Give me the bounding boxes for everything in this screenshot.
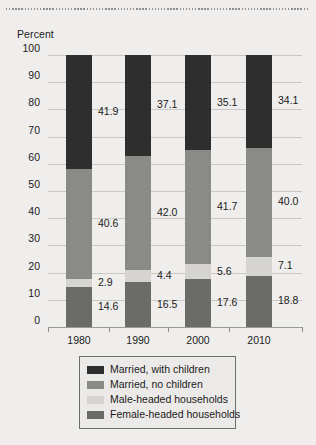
bar-segment-label: 4.4 — [157, 269, 172, 281]
legend-label: Married, with children — [110, 364, 210, 375]
x-axis-tick — [48, 327, 49, 332]
y-axis-tick-label: 80 — [6, 96, 40, 108]
y-axis-tick-label: 60 — [6, 151, 40, 163]
bar-segment — [66, 169, 92, 279]
bar-segment — [125, 270, 151, 282]
legend-label: Female-headed households — [110, 409, 240, 420]
x-axis-tick — [302, 327, 303, 332]
bar-segment-label: 41.7 — [217, 200, 237, 212]
bar-segment-label: 37.1 — [157, 98, 177, 110]
bar-segment-label: 7.1 — [278, 259, 293, 271]
x-axis-tick-label: 2000 — [173, 334, 223, 346]
y-axis-tick-label: 30 — [6, 232, 40, 244]
y-axis-tick-label: 40 — [6, 205, 40, 217]
legend-label: Married, no children — [110, 379, 203, 390]
bar-segment — [246, 148, 272, 257]
gridline — [48, 327, 302, 328]
bar-segment-label: 14.6 — [98, 300, 118, 312]
y-axis-tick-label: 50 — [6, 178, 40, 190]
y-axis-tick-label: 20 — [6, 260, 40, 272]
y-axis-title: Percent — [17, 28, 54, 40]
legend-label: Male-headed households — [110, 394, 228, 405]
top-dotted-rule — [6, 8, 310, 10]
x-axis-tick — [229, 327, 230, 332]
bar-segment — [66, 55, 92, 169]
plot-area: 1009080706050403020100 14.62.940.641.916… — [48, 55, 302, 327]
bar-segment-label: 34.1 — [278, 94, 298, 106]
bar-segment-label: 40.0 — [278, 195, 298, 207]
y-axis-tick-label: 90 — [6, 69, 40, 81]
x-axis-tick — [109, 327, 110, 332]
bar-segment — [185, 264, 211, 279]
chart-figure: Percent 1009080706050403020100 14.62.940… — [0, 0, 316, 445]
bar-segment-label: 40.6 — [98, 217, 118, 229]
bar-segment — [125, 156, 151, 270]
bar-stack — [125, 55, 151, 327]
y-axis-tick-label: 10 — [6, 287, 40, 299]
legend-swatch-icon — [87, 381, 104, 389]
bar-segment-label: 2.9 — [98, 276, 113, 288]
x-axis-tick-label: 2010 — [234, 334, 284, 346]
chart-legend: Married, with childrenMarried, no childr… — [79, 356, 236, 429]
x-axis-tick — [168, 327, 169, 332]
bar-stack — [66, 55, 92, 327]
bar-segment — [246, 276, 272, 327]
bar-segment — [185, 55, 211, 150]
bar-segment — [185, 279, 211, 327]
bar-segment-label: 41.9 — [98, 105, 118, 117]
bar-stack — [246, 55, 272, 327]
bar-segment — [246, 55, 272, 148]
y-axis-tick-label: 0 — [6, 314, 40, 326]
legend-swatch-icon — [87, 366, 104, 374]
bar-segment-label: 5.6 — [217, 265, 232, 277]
legend-item: Married, no children — [87, 377, 228, 392]
bar-segment — [66, 279, 92, 287]
bar-segment-label: 17.6 — [217, 296, 237, 308]
y-axis-tick-label: 70 — [6, 124, 40, 136]
bar-segment-label: 35.1 — [217, 96, 237, 108]
x-axis-tick-label: 1980 — [54, 334, 104, 346]
y-axis-tick-label: 100 — [6, 42, 40, 54]
legend-item: Married, with children — [87, 362, 228, 377]
bar-segment-label: 16.5 — [157, 298, 177, 310]
legend-item: Female-headed households — [87, 407, 228, 422]
bar-segment — [125, 282, 151, 327]
bar-segment — [66, 287, 92, 327]
bar-segment — [185, 150, 211, 263]
x-axis-tick-label: 1990 — [113, 334, 163, 346]
bar-segment — [125, 55, 151, 156]
bar-segment — [246, 257, 272, 276]
legend-swatch-icon — [87, 411, 104, 419]
bar-segment-label: 18.8 — [278, 294, 298, 306]
legend-item: Male-headed households — [87, 392, 228, 407]
bar-segment-label: 42.0 — [157, 206, 177, 218]
bar-stack — [185, 55, 211, 327]
legend-swatch-icon — [87, 396, 104, 404]
